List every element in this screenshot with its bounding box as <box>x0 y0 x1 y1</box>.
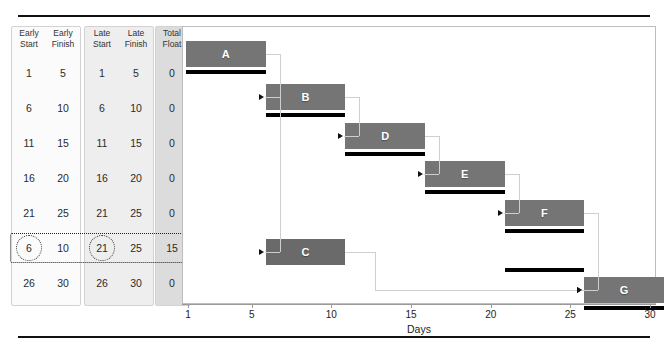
dependency-d-to-e-h2 <box>424 174 439 175</box>
table-cell: 1 <box>85 58 119 88</box>
axis-tick-label: 10 <box>316 309 346 320</box>
table-cell: 1 <box>12 58 46 88</box>
gantt-chart-panel: ABDEFCG Legend Early dates Non-critical … <box>182 26 656 304</box>
table-row: 263026300 <box>8 268 176 298</box>
table-grid: EarlyStartEarlyFinishLateStartLateFinish… <box>8 26 176 306</box>
table-cell: 5 <box>46 58 80 88</box>
table-cell: 15 <box>119 128 153 158</box>
dependency-e-to-f-arrowhead <box>498 210 503 216</box>
dependency-c-to-g-h2 <box>375 290 583 291</box>
dependency-e-to-f-h1 <box>505 174 519 175</box>
dependency-c-to-g-h1 <box>345 252 375 253</box>
table-row: 111511150 <box>8 128 176 158</box>
dependency-b-to-d-h1 <box>345 97 359 98</box>
table-cell: 25 <box>119 198 153 228</box>
table-cell: 5 <box>119 58 153 88</box>
x-axis-title: Days <box>182 323 656 335</box>
late-date-bar-a <box>186 70 266 74</box>
dependency-f-to-g-v <box>598 213 599 290</box>
table-cell: 21 <box>12 198 46 228</box>
table-cell: 16 <box>12 163 46 193</box>
table-cell: 30 <box>46 268 80 298</box>
table-cell: 10 <box>46 93 80 123</box>
dependency-c-to-g-v <box>375 252 376 290</box>
axis-tick <box>491 304 492 308</box>
axis-tick <box>570 304 571 308</box>
table-cell: 30 <box>119 268 153 298</box>
table-row: 162016200 <box>8 163 176 193</box>
gantt-plot-area: ABDEFCG <box>183 27 655 303</box>
late-date-bar-f <box>505 229 585 233</box>
dependency-e-to-f-h2 <box>504 213 519 214</box>
table-cell: 20 <box>119 163 153 193</box>
x-axis-line <box>182 304 656 305</box>
axis-tick-label: 5 <box>237 309 267 320</box>
table-cell: 16 <box>85 163 119 193</box>
axis-tick-label: 15 <box>396 309 426 320</box>
dependency-a-to-b-arrowhead <box>259 94 264 100</box>
dependency-e-to-f-v <box>519 174 520 213</box>
dependency-f-to-g-h2 <box>583 290 598 291</box>
table-cell: 11 <box>85 128 119 158</box>
column-header: LateStart <box>85 28 119 49</box>
table-row: 6106100 <box>8 93 176 123</box>
table-row: 212521250 <box>8 198 176 228</box>
late-date-bar-e <box>425 190 505 194</box>
table-cell: 10 <box>46 233 80 263</box>
dependency-a-to-c-h1 <box>266 54 280 55</box>
dependency-a-to-c-arrowhead <box>259 249 264 255</box>
dependency-a-to-c-h2 <box>265 252 280 253</box>
table-cell: 25 <box>46 198 80 228</box>
axis-tick-label: 30 <box>635 309 665 320</box>
table-header-row: EarlyStartEarlyFinishLateStartLateFinish… <box>8 28 176 54</box>
dependency-d-to-e-arrowhead <box>418 171 423 177</box>
axis-tick <box>188 304 189 308</box>
column-header: EarlyFinish <box>46 28 80 49</box>
axis-tick-label: 25 <box>555 309 585 320</box>
gantt-figure: EarlyStartEarlyFinishLateStartLateFinish… <box>0 0 668 354</box>
table-cell: 26 <box>85 268 119 298</box>
table-cell: 15 <box>46 128 80 158</box>
dependency-b-to-d-h2 <box>344 136 359 137</box>
axis-tick-label: 20 <box>476 309 506 320</box>
column-header: EarlyStart <box>12 28 46 49</box>
late-date-bar-d <box>345 152 425 156</box>
table-cell: 20 <box>46 163 80 193</box>
x-axis: 151015202530 Days <box>182 304 656 338</box>
table-cell: 10 <box>119 93 153 123</box>
dependency-d-to-e-v <box>439 136 440 174</box>
table-cell: 6 <box>12 93 46 123</box>
axis-tick <box>331 304 332 308</box>
late-date-bar-b <box>266 113 346 117</box>
table-cell: 25 <box>119 233 153 263</box>
dependency-b-to-d-arrowhead <box>338 133 343 139</box>
axis-tick <box>411 304 412 308</box>
late-date-bar-c <box>505 268 585 272</box>
table-cell: 6 <box>12 233 46 263</box>
axis-tick-label: 1 <box>173 309 203 320</box>
table-cell: 21 <box>85 233 119 263</box>
dependency-a-to-c-v <box>280 54 281 252</box>
table-row: 15150 <box>8 58 176 88</box>
table-cell: 26 <box>12 268 46 298</box>
dependency-a-to-b-h2 <box>265 97 280 98</box>
table-row: 610212515 <box>8 233 176 263</box>
dependency-b-to-d-v <box>359 97 360 136</box>
axis-tick <box>650 304 651 308</box>
axis-tick <box>252 304 253 308</box>
dependency-f-to-g-h1 <box>584 213 598 214</box>
table-cell: 11 <box>12 128 46 158</box>
top-rule <box>18 15 650 17</box>
schedule-table: EarlyStartEarlyFinishLateStartLateFinish… <box>8 26 176 306</box>
table-cell: 6 <box>85 93 119 123</box>
gantt-bar-a[interactable]: A <box>186 41 266 67</box>
dependency-d-to-e-h1 <box>425 136 439 137</box>
dependency-c-to-g-arrowhead <box>577 287 582 293</box>
column-header: LateFinish <box>119 28 153 49</box>
table-cell: 21 <box>85 198 119 228</box>
